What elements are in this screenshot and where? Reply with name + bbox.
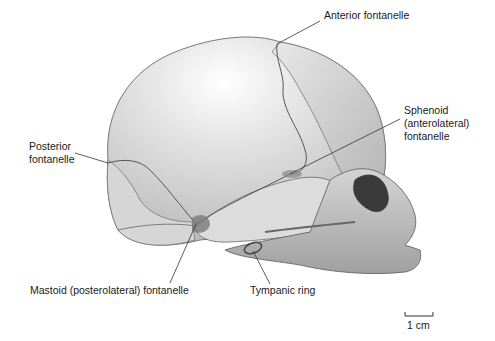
label-mastoid-fontanelle: Mastoid (posterolateral) fontanelle [30,284,189,297]
leader-posterior [75,153,108,163]
scale-bar-label: 1 cm [407,319,430,331]
label-posterior-fontanelle: Posterior fontanelle [29,140,75,166]
label-tympanic-ring: Tympanic ring [250,284,315,297]
sphenoid-fontanelle [282,170,302,178]
skull-figure: Anterior fontanelle Sphenoid (anterolate… [0,0,495,341]
leader-anterior [277,21,320,44]
label-anterior-fontanelle: Anterior fontanelle [324,9,409,22]
label-sphenoid-fontanelle: Sphenoid (anterolateral) fontanelle [404,104,469,143]
scale-bar [405,312,433,316]
